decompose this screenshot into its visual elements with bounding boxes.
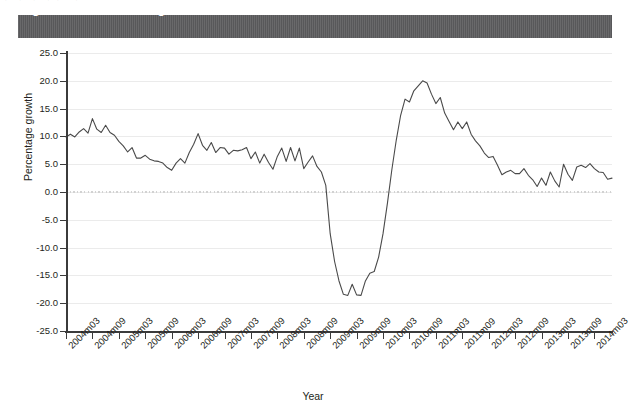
x-axis-tick: [225, 333, 226, 339]
x-axis-tick: [542, 333, 543, 339]
x-axis-tick: [198, 333, 199, 339]
y-axis-tick-label-text: -15.0: [18, 269, 58, 280]
x-axis-tick: [66, 333, 67, 339]
figure-title-band: [18, 15, 612, 38]
plot-region: [66, 53, 612, 331]
x-axis-tick: [277, 333, 278, 339]
x-axis-tick: [330, 333, 331, 339]
y-axis-tick: [60, 220, 67, 221]
x-axis-tick: [489, 333, 490, 339]
y-axis-tick-label-text: -25.0: [18, 325, 58, 336]
y-axis-tick: [60, 81, 67, 82]
y-axis-tick-label-text: -10.0: [18, 242, 58, 253]
x-axis-tick: [119, 333, 120, 339]
y-axis-tick: [60, 109, 67, 110]
cropped-text-fragment: . , . . , . . , . . , . , . . . , .: [0, 0, 83, 1]
y-axis-tick: [60, 136, 67, 137]
figure-title: Figure 2.13: World trade growth: [22, 4, 197, 16]
chart-canvas: 25.020.015.010.05.00.0-5.0-10.0-15.0-20.…: [0, 38, 626, 405]
y-axis-tick-label: -25.0: [0, 325, 58, 337]
y-axis-tick: [60, 53, 67, 54]
x-axis-tick: [92, 333, 93, 339]
x-axis-title: Year: [0, 390, 626, 402]
x-axis-tick: [462, 333, 463, 339]
x-axis-tick: [383, 333, 384, 339]
x-axis-tick: [251, 333, 252, 339]
y-axis-tick: [60, 275, 67, 276]
x-axis-tick: [515, 333, 516, 339]
x-axis-tick: [172, 333, 173, 339]
y-axis-tick: [60, 164, 67, 165]
y-axis-tick: [60, 331, 67, 332]
y-axis-tick: [60, 303, 67, 304]
series-line-world-trade-growth: [66, 53, 612, 331]
x-axis-tick: [594, 333, 595, 339]
y-axis-tick: [60, 192, 67, 193]
y-axis-tick-label: -15.0: [0, 269, 58, 281]
y-axis-tick: [60, 248, 67, 249]
x-axis-tick: [145, 333, 146, 339]
y-axis-tick-label-text: -20.0: [18, 297, 58, 308]
y-axis-title: Percentage growth: [22, 57, 34, 217]
x-axis-tick: [436, 333, 437, 339]
x-axis-tick: [357, 333, 358, 339]
x-axis-tick: [568, 333, 569, 339]
x-axis-tick: [409, 333, 410, 339]
x-axis-tick: [304, 333, 305, 339]
y-axis-tick-label: -10.0: [0, 242, 58, 254]
y-axis-tick-label: -20.0: [0, 297, 58, 309]
